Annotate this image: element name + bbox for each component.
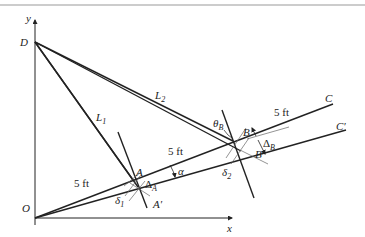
dimension-BC: 5 ft	[274, 106, 289, 118]
point-D-label: D	[19, 36, 28, 48]
x-axis-label: x	[226, 222, 232, 234]
point-C-prime-label: C′	[336, 120, 346, 132]
y-axis-label: y	[25, 12, 31, 24]
delta-1-label: δ1	[115, 194, 124, 209]
point-C-label: C	[325, 92, 333, 104]
angle-theta-B-label: θB	[213, 117, 223, 132]
alpha-arc	[170, 165, 175, 177]
point-B-label: B	[243, 126, 250, 138]
point-B-prime-label: B′	[255, 148, 265, 160]
dimension-AB: 5 ft	[168, 145, 183, 157]
delta-B-label: ΔB	[263, 137, 275, 152]
angle-alpha-label: α	[178, 165, 184, 177]
delta-A-label: ΔA	[145, 178, 157, 193]
point-A-prime-label: A′	[152, 198, 163, 210]
cable-L2	[35, 42, 233, 141]
bar-OC-prime	[35, 130, 346, 218]
cable-L2-deformed	[35, 42, 241, 151]
cable-L1-deformed	[35, 42, 138, 187]
point-O-label: O	[22, 202, 30, 214]
dimension-OA: 5 ft	[74, 177, 89, 189]
truss-displacement-diagram: y x D O A A′ B B′ C C′ L1 L2 5 ft 5 f	[0, 0, 365, 237]
point-A-label: A	[135, 166, 143, 178]
cable-L1-label: L1	[95, 111, 106, 126]
delta-2-label: δ2	[222, 166, 231, 181]
